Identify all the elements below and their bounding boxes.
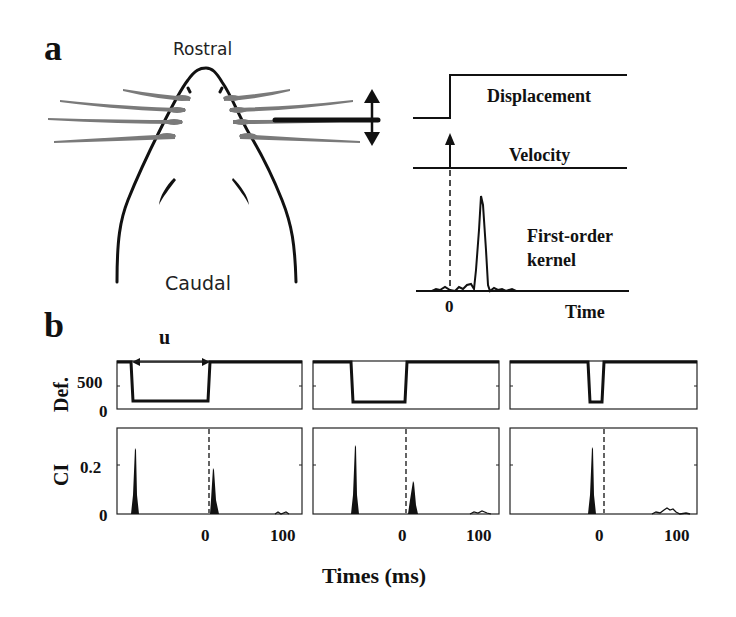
xtick-100-col2: 100 — [466, 526, 492, 545]
ci-ytick-0: 0 — [99, 506, 108, 525]
panel-b-label: b — [44, 305, 64, 345]
ci-ytick-0-2: 0.2 — [80, 458, 101, 477]
velocity-label: Velocity — [509, 145, 570, 165]
x-axis-label: Times (ms) — [322, 563, 426, 588]
xtick-100-col3: 100 — [664, 526, 690, 545]
impulse-arrow-icon — [445, 133, 455, 145]
whiskers-left-icon — [48, 89, 191, 143]
def-plot-3 — [510, 361, 697, 409]
panel-a-label: a — [44, 28, 62, 68]
ci-plot-3 — [510, 428, 697, 514]
rostral-label: Rostral — [173, 39, 232, 59]
time-label: Time — [565, 302, 605, 322]
rat-head-outline-icon — [117, 68, 296, 282]
xtick-0-col3: 0 — [595, 526, 604, 545]
ci-ylabel: CI — [50, 464, 72, 486]
rat-eyes-icon — [159, 178, 249, 205]
def-ytick-0: 0 — [99, 402, 108, 421]
def-plot-1 — [117, 361, 302, 409]
figure-canvas: a Rostral Caudal — [0, 0, 736, 617]
xtick-0-col1: 0 — [201, 526, 210, 545]
whiskers-right-icon — [223, 89, 370, 143]
displacement-label: Displacement — [487, 86, 591, 106]
xtick-0-col2: 0 — [398, 526, 407, 545]
def-ylabel: Def. — [50, 377, 72, 412]
interval-arrow-icon — [132, 358, 210, 366]
kernel-label-line1: First-order — [527, 226, 613, 246]
interval-u-label: u — [159, 326, 170, 348]
def-ytick-500: 500 — [77, 373, 103, 392]
kernel-label-line2: kernel — [527, 250, 576, 270]
def-plot-2 — [313, 361, 499, 409]
ci-plot-1 — [117, 428, 302, 514]
caudal-label: Caudal — [165, 272, 231, 294]
kernel-zero-tick: 0 — [445, 297, 454, 316]
ci-plot-2 — [313, 428, 499, 514]
xtick-100-col1: 100 — [270, 526, 296, 545]
